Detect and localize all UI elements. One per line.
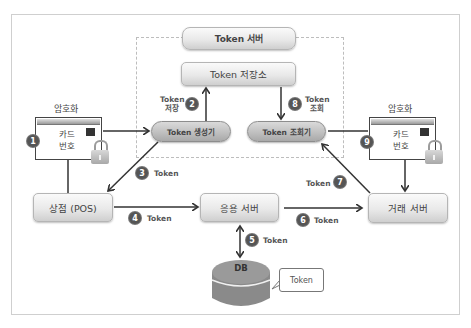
step-7-label: Token bbox=[306, 179, 331, 188]
step-6-label: Token bbox=[314, 216, 339, 225]
step-4-label: Token bbox=[147, 214, 172, 223]
step-2-label: Token 저장 bbox=[160, 95, 185, 113]
step-3-label: Token bbox=[154, 169, 179, 178]
db-token-bubble: Token bbox=[279, 268, 324, 292]
step-3-badge: 3 bbox=[136, 167, 148, 179]
step-7-badge: 7 bbox=[334, 176, 346, 188]
step-8-badge: 8 bbox=[289, 98, 301, 110]
step-5-label: Token bbox=[263, 236, 288, 245]
step-6-badge: 6 bbox=[297, 214, 309, 226]
step-5-badge: 5 bbox=[246, 234, 258, 246]
step-4-badge: 4 bbox=[129, 212, 141, 224]
step-2-badge: 2 bbox=[186, 98, 198, 110]
bubble-tail bbox=[0, 0, 471, 328]
step-8-label: Token 조회 bbox=[305, 95, 330, 113]
